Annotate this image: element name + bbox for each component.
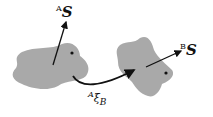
label-transform: AξB bbox=[88, 90, 106, 107]
label-frame-a: AS bbox=[56, 2, 73, 21]
body-b-origin bbox=[164, 71, 167, 74]
label-frame-b: BS bbox=[180, 40, 197, 59]
body-b-blob bbox=[117, 37, 173, 96]
body-a-blob bbox=[13, 43, 89, 89]
body-a-origin bbox=[70, 51, 73, 54]
label-b-symbol: S bbox=[186, 41, 197, 59]
label-a-symbol: S bbox=[62, 3, 73, 21]
transform-subscript: B bbox=[100, 97, 107, 107]
